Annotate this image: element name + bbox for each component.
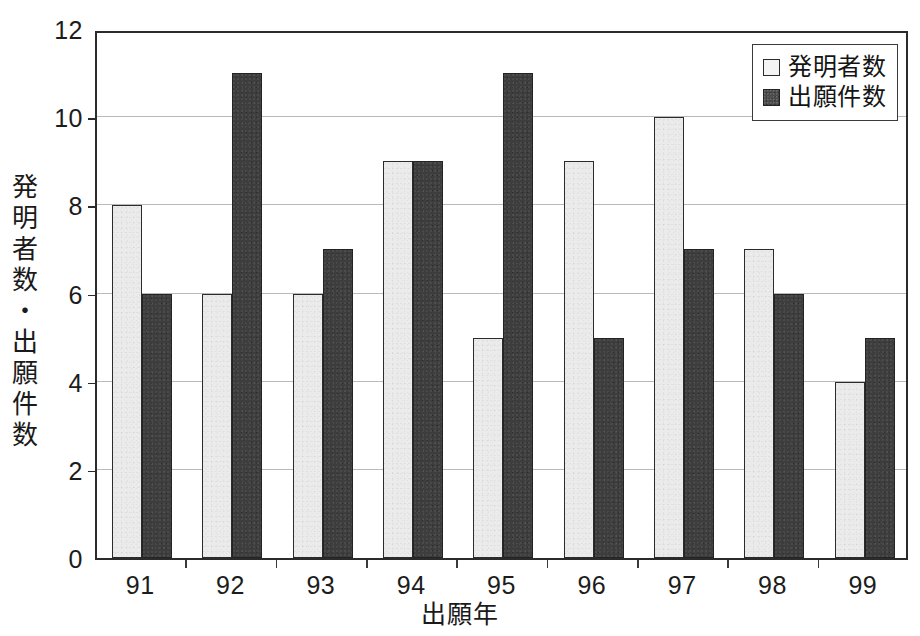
legend-item: 出願件数: [763, 82, 886, 112]
y-axis-title-char: ・: [8, 296, 42, 327]
x-axis-tick-label: 94: [371, 572, 451, 599]
legend-swatch-filled-square-icon: [763, 89, 780, 106]
bar: [413, 161, 443, 558]
bar: [323, 249, 353, 558]
legend-item-label: 出願件数: [788, 84, 886, 110]
x-axis-tick-mark: [185, 560, 187, 568]
y-axis-tick-mark: [88, 295, 95, 297]
bar: [744, 249, 774, 558]
bar: [835, 382, 865, 558]
y-axis-title-char: 数: [8, 420, 42, 451]
y-axis-title-char: 明: [8, 203, 42, 234]
bar: [473, 338, 503, 558]
y-axis-title-char: 願: [8, 358, 42, 389]
x-axis-tick-label: 91: [100, 572, 180, 599]
legend: 発明者数出願件数: [752, 44, 898, 121]
x-axis-tick-mark: [818, 560, 820, 568]
y-axis-title-char: 出: [8, 327, 42, 358]
y-axis-tick-mark: [88, 118, 95, 120]
x-axis-tick-label: 96: [552, 572, 632, 599]
bar: [293, 294, 323, 559]
bar: [774, 294, 804, 559]
bar-chart-figure: 024681012 発明者数・出願件数 919293949596979899 出…: [0, 0, 920, 636]
bar-group: [97, 33, 187, 558]
bar: [112, 205, 142, 558]
bar-group: [639, 33, 729, 558]
y-axis-title-char: 件: [8, 389, 42, 420]
bar: [383, 161, 413, 558]
bar: [232, 73, 262, 558]
bar: [564, 161, 594, 558]
legend-item-label: 発明者数: [788, 54, 886, 80]
x-axis-tick-mark: [366, 560, 368, 568]
x-axis-tick-label: 97: [642, 572, 722, 599]
bar-group: [368, 33, 458, 558]
legend-item: 発明者数: [763, 52, 886, 82]
x-axis-tick-label: 95: [462, 572, 542, 599]
x-axis-title: 出願年: [0, 600, 920, 628]
x-axis-tick-mark: [727, 560, 729, 568]
y-axis-title-char: 者: [8, 234, 42, 265]
x-axis-tick-mark: [637, 560, 639, 568]
x-axis-tick-mark: [276, 560, 278, 568]
bar-group: [278, 33, 368, 558]
x-axis-tick-mark: [456, 560, 458, 568]
y-axis-tick-label: 12: [9, 18, 83, 43]
y-axis-title-char: 数: [8, 265, 42, 296]
x-axis-tick-label: 99: [823, 572, 903, 599]
x-axis-tick-label: 98: [733, 572, 813, 599]
y-axis-tick-mark: [88, 383, 95, 385]
bar: [202, 294, 232, 559]
y-axis-tick-mark: [88, 471, 95, 473]
x-axis-tick-mark: [547, 560, 549, 568]
bar: [503, 73, 533, 558]
legend-swatch-open-square-icon: [763, 59, 780, 76]
bar-group: [187, 33, 277, 558]
x-axis-tick-label: 93: [281, 572, 361, 599]
bar: [654, 117, 684, 558]
y-axis-title: 発明者数・出願件数: [8, 172, 42, 451]
bar-group: [549, 33, 639, 558]
y-axis-tick-mark: [88, 206, 95, 208]
y-axis-title-char: 発: [8, 172, 42, 203]
bar: [142, 294, 172, 559]
bar-group: [458, 33, 548, 558]
bar: [865, 338, 895, 558]
bar: [594, 338, 624, 558]
y-axis-tick-label: 0: [9, 547, 83, 572]
y-axis-tick-label: 2: [9, 459, 83, 484]
x-axis-tick-label: 92: [191, 572, 271, 599]
bar: [684, 249, 714, 558]
y-axis-tick-label: 10: [9, 106, 83, 131]
